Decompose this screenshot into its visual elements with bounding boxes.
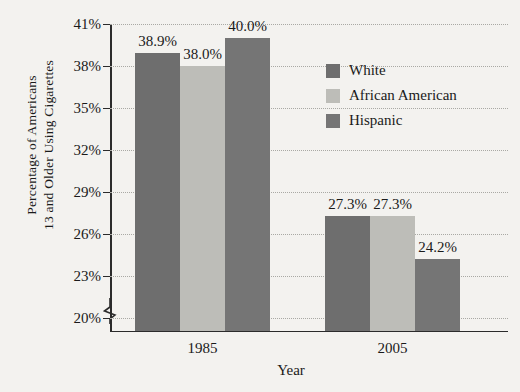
y-axis-tick — [103, 108, 110, 109]
bar-value-label: 38.0% — [183, 46, 222, 63]
y-axis-tick-label: 20% — [49, 310, 101, 327]
legend-label: Hispanic — [349, 112, 402, 129]
bar-value-label: 27.3% — [328, 196, 367, 213]
bar-value-label: 24.2% — [418, 239, 457, 256]
bar[interactable]: 38.0% — [180, 66, 225, 331]
y-axis-tick — [103, 66, 110, 67]
legend-item[interactable]: White — [326, 58, 506, 83]
bar-value-label: 40.0% — [228, 18, 267, 35]
y-axis-tick-label: 29% — [49, 184, 101, 201]
bar-value-label: 38.9% — [138, 33, 177, 50]
bar[interactable]: 27.3% — [325, 216, 370, 331]
legend-swatch — [326, 64, 340, 78]
y-axis-tick — [103, 276, 110, 277]
bar[interactable]: 40.0% — [225, 38, 270, 331]
y-axis-tick-label: 41% — [49, 16, 101, 33]
y-axis-tick — [103, 318, 110, 319]
axis-break-icon — [103, 298, 117, 324]
legend-item[interactable]: African American — [326, 83, 506, 108]
legend: WhiteAfrican AmericanHispanic — [326, 58, 506, 133]
bar[interactable]: 24.2% — [415, 259, 460, 331]
legend-swatch — [326, 114, 340, 128]
gridline — [110, 24, 508, 25]
bar[interactable]: 38.9% — [135, 53, 180, 331]
y-axis-tick-label: 38% — [49, 58, 101, 75]
bar[interactable]: 27.3% — [370, 216, 415, 331]
bar-value-label: 27.3% — [373, 196, 412, 213]
y-axis-tick-label: 35% — [49, 100, 101, 117]
x-axis-title: Year — [0, 362, 520, 379]
x-axis-title-text: Year — [215, 362, 305, 378]
y-axis-tick — [103, 24, 110, 25]
y-axis-tick-label: 32% — [49, 142, 101, 159]
y-axis-line — [110, 24, 112, 332]
legend-item[interactable]: Hispanic — [326, 108, 506, 133]
legend-label: White — [349, 62, 386, 79]
y-axis-tick — [103, 150, 110, 151]
x-axis-tick-label: 1985 — [188, 340, 218, 357]
legend-swatch — [326, 89, 340, 103]
legend-label: African American — [349, 87, 457, 104]
y-axis-tick — [103, 192, 110, 193]
bar-chart: Percentage of Americans 13 and Older Usi… — [0, 0, 520, 392]
y-axis-title-line1: Percentage of Americans — [23, 0, 40, 290]
y-axis-tick — [103, 234, 110, 235]
y-axis-tick-label: 23% — [49, 268, 101, 285]
x-axis-tick-label: 2005 — [378, 340, 408, 357]
y-axis-tick-label: 26% — [49, 226, 101, 243]
